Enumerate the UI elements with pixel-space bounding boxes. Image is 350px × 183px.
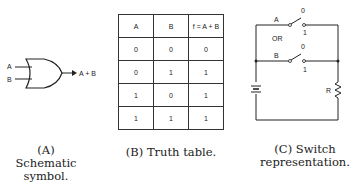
header-b: B [154,15,189,38]
caption-b: (B) Truth table. [118,146,224,159]
caption-c-line2: representation. [260,156,350,169]
panel-switch-representation: A 0 1 OR B 0 1 R (C) Switch representati… [240,0,348,171]
cell: 1 [154,107,189,130]
caption-a-line2: symbol. [6,170,86,183]
table-row: 0 1 1 [119,61,224,84]
cell: 1 [189,107,224,130]
or-label: OR [272,35,283,42]
resistor-label: R [326,87,331,94]
switch-a-label: A [274,16,279,23]
switch-b-label: B [274,52,279,59]
input-b-label: B [7,76,12,83]
cell: 0 [154,38,189,61]
switch-a-on-label: 1 [303,29,307,36]
caption-a: (A) Schematic symbol. [6,144,86,183]
truth-table: A B f = A + B 0 0 0 0 1 1 1 0 1 1 1 1 [118,14,224,130]
switch-a-blade-icon [291,18,301,24]
switch-b-off-label: 0 [301,43,305,50]
cell: 1 [154,61,189,84]
switch-b-blade-icon [291,54,301,60]
switch-b-on-label: 1 [303,66,307,73]
caption-a-line1: (A) Schematic [6,144,86,170]
table-row: 1 1 1 [119,107,224,130]
panel-schematic-symbol: A B A + B (A) Schematic symbol. [0,0,110,171]
table-row: 0 0 0 [119,38,224,61]
cell: 1 [119,84,154,107]
cell: 0 [154,84,189,107]
cell: 0 [119,38,154,61]
input-a-label: A [7,63,12,70]
switch-a-off-label: 0 [301,7,305,14]
cell: 0 [189,38,224,61]
output-label: A + B [79,70,96,77]
cell: 1 [189,84,224,107]
table-row: 1 0 1 [119,84,224,107]
resistor-icon [335,82,341,98]
cell: 1 [189,61,224,84]
cell: 0 [119,61,154,84]
header-f: f = A + B [189,15,224,38]
caption-c: (C) Switch representation. [260,143,350,169]
table-header-row: A B f = A + B [119,15,224,38]
header-a: A [119,15,154,38]
battery-icon [250,82,262,94]
cell: 1 [119,107,154,130]
